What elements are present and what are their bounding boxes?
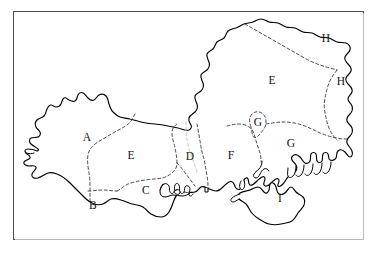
region-label-f: F [228,149,235,161]
region-label-c: C [142,184,150,196]
exe-estuary-notch [205,188,208,192]
region-label-i: I [278,192,282,204]
region-label-e-north: E [268,74,275,86]
region-label-h-east: H [337,75,346,87]
region-label-a: A [83,131,92,143]
lands-end-detail [26,153,34,154]
region-label-b: B [89,199,97,211]
isle-of-wight-coastline [238,183,305,225]
torpoint-islet [175,190,181,195]
region-label-g-east: G [287,137,296,149]
region-map-graphic: A B C D E E F G G H H I [0,0,379,257]
poole-harbour-inlet [240,180,245,190]
region-label-g-loop: G [254,116,263,128]
region-label-d: D [186,150,195,162]
region-label-e-west: E [127,149,134,161]
screenshot-root: A B C D E E F G G H H I [0,0,379,257]
region-label-h-north: H [322,32,331,44]
isle-of-wight-western-spit [231,194,240,202]
